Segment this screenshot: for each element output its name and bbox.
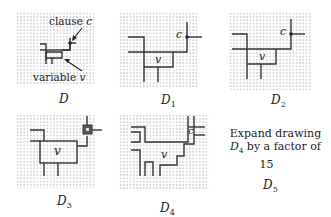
clause-node bbox=[289, 32, 293, 36]
panel-d4: c v D4 bbox=[105, 108, 225, 217]
clause-annotation: clause c bbox=[49, 15, 92, 27]
clause-label: clause bbox=[49, 15, 83, 27]
clause-node bbox=[68, 41, 72, 45]
variable-var: v bbox=[79, 71, 85, 83]
panel-label-d5: D5 bbox=[263, 178, 278, 194]
clause-var: c bbox=[86, 15, 92, 27]
clause-label: c bbox=[188, 125, 194, 136]
d5-caption: Expand drawing D4 by a factor of 15 bbox=[220, 127, 331, 171]
panel-d: clause c variable v D bbox=[0, 0, 110, 108]
drawing-d2 bbox=[215, 0, 331, 108]
panel-d1: c v D1 bbox=[105, 0, 215, 108]
caption-line-3: 15 bbox=[220, 158, 313, 171]
panel-label-d2: D2 bbox=[271, 93, 286, 109]
variable-label: variable bbox=[33, 71, 76, 83]
caption-line-2: D4 by a factor of bbox=[220, 140, 331, 158]
drawing-d3 bbox=[0, 108, 110, 217]
panel-d5: Expand drawing D4 by a factor of 15 D5 bbox=[220, 108, 331, 217]
variable-label: v bbox=[155, 53, 161, 66]
panel-label-d3: D3 bbox=[57, 194, 72, 210]
clause-node bbox=[185, 35, 189, 39]
panel-d3: v D3 bbox=[0, 108, 110, 217]
clause-label: c bbox=[280, 25, 286, 38]
panel-label-d4: D4 bbox=[160, 201, 175, 217]
variable-label: v bbox=[161, 148, 167, 161]
variable-annotation: variable v bbox=[33, 71, 85, 83]
panel-label-d: D bbox=[59, 92, 69, 106]
variable-label: v bbox=[259, 50, 265, 63]
panel-label-d1: D1 bbox=[161, 93, 176, 109]
clause-label: c bbox=[176, 28, 182, 41]
caption-line-1: Expand drawing bbox=[220, 127, 331, 140]
variable-label: v bbox=[54, 144, 61, 158]
panel-d2: c v D2 bbox=[215, 0, 331, 108]
